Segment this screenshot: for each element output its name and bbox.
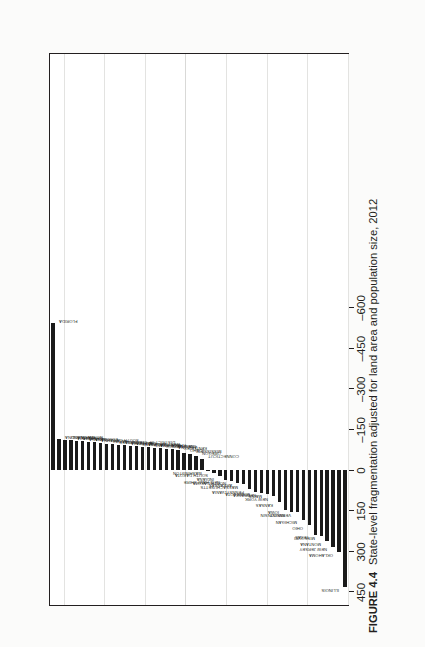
axis-tick-label: 450 (355, 582, 367, 601)
bar (194, 456, 197, 470)
axis-tick-label: 0 (355, 467, 367, 473)
bar (182, 452, 185, 469)
bar (158, 448, 161, 469)
bar (116, 444, 119, 469)
bar (307, 469, 310, 525)
bar (247, 469, 250, 489)
bar-label: FLORIDA (58, 318, 76, 322)
axis-tick (349, 469, 354, 470)
bar (337, 469, 340, 552)
bar (152, 447, 155, 469)
bar (212, 469, 215, 472)
figure-caption: FIGURE 4.4State-level fragmentation adju… (367, 43, 379, 633)
bar (98, 443, 101, 470)
bar (75, 440, 78, 469)
bar (253, 469, 256, 491)
bar (242, 469, 245, 484)
axis-tick (349, 347, 354, 348)
bar (188, 453, 191, 469)
bar (104, 443, 107, 469)
bar (277, 469, 280, 502)
bar (140, 446, 143, 469)
bar-label: MASSACHUSETTS (199, 484, 237, 488)
bar-label: MISSOURI (294, 536, 315, 540)
axis-tick-label: –600 (355, 295, 367, 321)
axis-tick-label: 300 (355, 542, 367, 561)
axis-tick-label: –150 (355, 417, 367, 443)
bar (69, 440, 72, 469)
bar (87, 441, 90, 469)
bar-label: CONNECTICUT (207, 454, 238, 458)
bar (134, 446, 137, 469)
bar (283, 469, 286, 509)
axis-tick (349, 307, 354, 308)
bar (295, 469, 298, 512)
bar-label: ILLINOIS (321, 587, 339, 591)
axis-tick (349, 388, 354, 389)
bar (313, 469, 316, 534)
bar (63, 439, 66, 469)
chart-plot-area: FLORIDANORTH CAROLINAMARYLANDVIRGINIAGEO… (49, 53, 349, 606)
bar (230, 469, 233, 480)
bar-label: NEW JERSEY (299, 547, 327, 551)
bar (170, 449, 173, 469)
bar-label: NEW YORK (244, 496, 267, 500)
bar (57, 439, 60, 469)
bar-label: OKLAHOMA (309, 552, 333, 556)
rotated-figure-stage: FLORIDANORTH CAROLINAMARYLANDVIRGINIAGEO… (37, 24, 389, 624)
bar (271, 469, 274, 496)
axis-tick-label: 150 (355, 501, 367, 520)
bar (301, 469, 304, 519)
bar (259, 469, 262, 492)
bar (110, 444, 113, 469)
axis-tick (349, 591, 354, 592)
axis-tick-label: –450 (355, 335, 367, 361)
bar (81, 441, 84, 469)
bar (343, 469, 346, 587)
bar-label: KANSAS (256, 502, 273, 506)
bar (122, 445, 125, 469)
bar (325, 469, 328, 541)
bar-label: MICHIGAN (276, 520, 297, 524)
bar (93, 442, 96, 469)
bar (331, 469, 334, 546)
bar (218, 469, 221, 476)
bar-label: OHIO (292, 525, 303, 529)
bar (236, 469, 239, 482)
bar (128, 445, 131, 469)
bar (51, 323, 54, 469)
bar (164, 448, 167, 469)
bar (289, 469, 292, 512)
bar (200, 458, 203, 469)
bar (206, 469, 209, 470)
bar-series: FLORIDANORTH CAROLINAMARYLANDVIRGINIAGEO… (50, 54, 348, 605)
figure-number: FIGURE 4.4 (367, 572, 379, 633)
figure-page: FLORIDANORTH CAROLINAMARYLANDVIRGINIAGEO… (0, 0, 425, 647)
bar-label: MONTANA (300, 541, 321, 545)
bar (146, 447, 149, 469)
axis-tick-label: –300 (355, 376, 367, 402)
axis-tick (349, 510, 354, 511)
axis-tick (349, 550, 354, 551)
bar-label: VERMONT (270, 512, 291, 516)
bar (319, 469, 322, 535)
axis-tick (349, 428, 354, 429)
bar (265, 469, 268, 493)
bar (224, 469, 227, 479)
bar (176, 450, 179, 470)
figure-caption-text: State-level fragmentation adjusted for l… (367, 198, 379, 564)
